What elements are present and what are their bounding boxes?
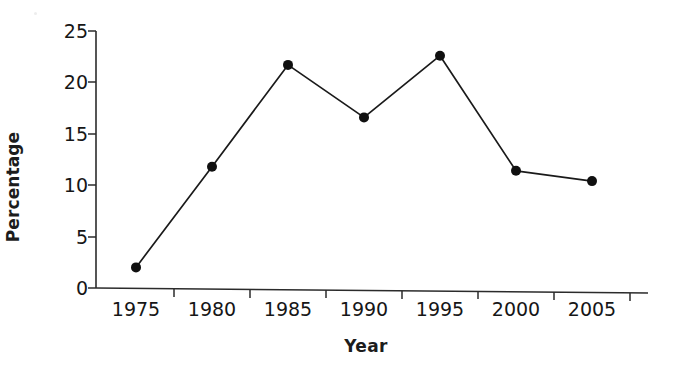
data-point bbox=[435, 51, 445, 61]
data-point bbox=[283, 60, 293, 70]
data-point bbox=[359, 112, 369, 122]
x-axis-line bbox=[96, 288, 648, 293]
line-chart: Percentage 25 20 15 10 5 0 1975 1980 198… bbox=[0, 0, 682, 374]
data-point bbox=[587, 176, 597, 186]
data-point bbox=[131, 262, 141, 272]
data-line bbox=[136, 56, 592, 268]
y-tick-marks bbox=[88, 31, 96, 288]
plot-area bbox=[0, 0, 682, 374]
data-markers bbox=[131, 51, 597, 273]
data-point bbox=[207, 162, 217, 172]
data-point bbox=[511, 166, 521, 176]
